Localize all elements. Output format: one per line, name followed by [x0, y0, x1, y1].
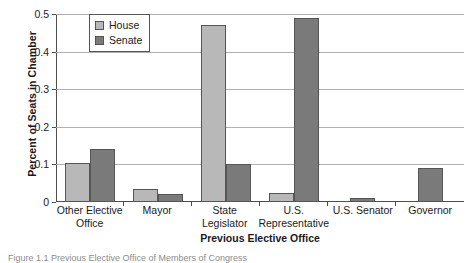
bar-senate [158, 194, 183, 202]
legend-item-house: House [95, 18, 142, 33]
figure-container: Percent of Seats in Chamber 00.10.20.30.… [0, 0, 474, 263]
bar-group [260, 14, 328, 202]
bar-group [396, 14, 464, 202]
x-category-label: Governor [397, 204, 464, 230]
x-axis-category-labels: Other ElectiveOfficeMayorStateLegislator… [56, 204, 464, 230]
y-tick-mark [52, 202, 56, 203]
bar-house [133, 189, 158, 202]
bar-group [192, 14, 260, 202]
y-tick-label: 0 [43, 196, 49, 208]
x-category-label: StateLegislator [191, 204, 258, 230]
bar-senate [294, 18, 319, 202]
figure-caption: Figure 1.1 Previous Elective Office of M… [8, 253, 348, 263]
bar-senate [226, 164, 251, 202]
legend-label-senate: Senate [109, 35, 142, 46]
bar-senate [418, 168, 443, 202]
y-tick-label: 0.3 [34, 83, 49, 95]
x-axis-title: Previous Elective Office [56, 232, 464, 244]
x-category-label: U.S.Representative [258, 204, 329, 230]
bar-senate [90, 149, 115, 202]
x-category-label: Mayor [123, 204, 190, 230]
bar-house [201, 25, 226, 202]
y-tick-label: 0.4 [34, 46, 49, 58]
x-category-label: Other ElectiveOffice [56, 204, 123, 230]
legend-swatch-senate [95, 36, 104, 45]
legend-swatch-house [95, 21, 104, 30]
bar-senate [350, 198, 375, 202]
bar-group [328, 14, 396, 202]
bar-house [65, 163, 90, 202]
y-tick-label: 0.5 [34, 8, 49, 20]
legend-label-house: House [109, 20, 139, 31]
y-tick-label: 0.2 [34, 121, 49, 133]
chart-legend: House Senate [89, 14, 150, 52]
legend-item-senate: Senate [95, 33, 142, 48]
y-tick-label: 0.1 [34, 158, 49, 170]
x-category-label: U.S. Senator [329, 204, 396, 230]
bar-house [269, 193, 294, 202]
